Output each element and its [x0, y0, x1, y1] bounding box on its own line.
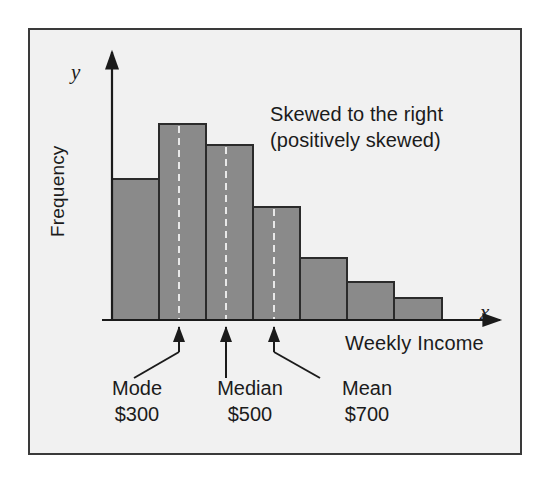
- figure-frame: y Frequency x Weekly Income Skewed to th…: [28, 28, 522, 455]
- stat-label-mode-value: $300: [82, 401, 192, 427]
- bar-2: [159, 124, 206, 320]
- stat-pointer-arrows: [179, 327, 274, 352]
- stat-label-mean-name: Mean: [312, 375, 422, 401]
- stat-label-median-value: $500: [190, 401, 310, 427]
- skew-annotation: Skewed to the right (positively skewed): [270, 102, 443, 153]
- bar-5: [300, 258, 347, 320]
- bar-7: [394, 298, 442, 320]
- stat-label-median: Median $500: [190, 375, 310, 427]
- x-axis-title: Weekly Income: [345, 332, 484, 356]
- stat-label-median-name: Median: [190, 375, 310, 401]
- stat-label-mode: Mode $300: [82, 375, 192, 427]
- plot-area: y Frequency x Weekly Income Skewed to th…: [30, 30, 520, 453]
- stat-label-mean-value: $700: [312, 401, 422, 427]
- stat-label-mean: Mean $700: [312, 375, 422, 427]
- y-axis-letter: y: [71, 60, 80, 85]
- histogram-bars: [112, 124, 442, 320]
- stat-label-mode-name: Mode: [82, 375, 192, 401]
- x-axis-letter: x: [480, 300, 489, 325]
- y-axis-title: Frequency: [47, 101, 69, 281]
- skew-annotation-line-2: (positively skewed): [270, 128, 443, 154]
- bar-1: [112, 179, 159, 320]
- bar-4: [253, 207, 300, 320]
- bar-3: [206, 145, 253, 320]
- bar-6: [347, 282, 394, 320]
- skew-annotation-line-1: Skewed to the right: [270, 102, 443, 128]
